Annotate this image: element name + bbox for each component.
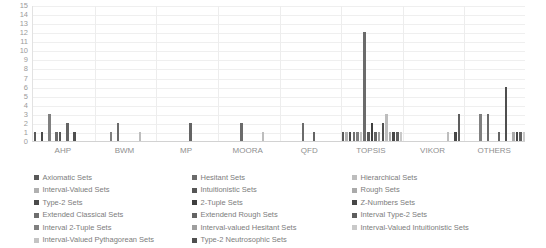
bar bbox=[342, 132, 344, 141]
bar-group-ahp bbox=[33, 6, 95, 141]
x-axis-label-qfd: QFD bbox=[301, 146, 318, 156]
legend-item[interactable]: Hierarchical Sets bbox=[352, 172, 532, 183]
x-axis: AHPBWMMPMOORAQFDTOPSISVIKOROTHERS bbox=[32, 146, 525, 164]
legend-item-label: Interval-Valued Pythagorean Sets bbox=[43, 236, 155, 244]
bar bbox=[389, 132, 391, 141]
y-axis-tick-1: 1 bbox=[24, 129, 28, 137]
legend-item-label: Axiomatic Sets bbox=[43, 174, 93, 182]
bar bbox=[378, 132, 380, 141]
y-axis-tick-11: 11 bbox=[20, 39, 28, 47]
legend-item-label: Interval-Valued Intuitionistic Sets bbox=[361, 224, 469, 232]
plot-area bbox=[32, 6, 525, 142]
legend-item[interactable]: Intuitionistic Sets bbox=[192, 185, 352, 196]
legend-column-3: Hierarchical SetsRough SetsZ-Numbers Set… bbox=[352, 172, 532, 246]
bar bbox=[55, 132, 57, 141]
legend-swatch-icon bbox=[34, 188, 39, 193]
y-axis-tick-12: 12 bbox=[20, 29, 28, 37]
legend-item-label: Hesitant Sets bbox=[201, 174, 246, 182]
x-axis-label-vikor: VIKOR bbox=[420, 146, 445, 156]
y-axis-tick-14: 14 bbox=[20, 11, 28, 19]
x-axis-label-ahp: AHP bbox=[55, 146, 71, 156]
bar bbox=[367, 132, 369, 141]
bar bbox=[345, 132, 347, 141]
y-axis-tick-5: 5 bbox=[24, 93, 28, 101]
bar bbox=[48, 114, 50, 141]
bar bbox=[349, 132, 351, 141]
legend-column-2: Hesitant SetsIntuitionistic Sets2-Tuple … bbox=[192, 172, 352, 246]
legend-item[interactable]: Extendend Rough Sets bbox=[192, 210, 352, 221]
legend-swatch-icon bbox=[34, 213, 39, 218]
y-axis-tick-2: 2 bbox=[24, 120, 28, 128]
legend-item[interactable]: Interval-valued Hesitant Sets bbox=[192, 222, 352, 233]
bar bbox=[382, 123, 384, 141]
legend-swatch-icon bbox=[352, 200, 357, 205]
legend-swatch-icon bbox=[352, 175, 357, 180]
bar bbox=[385, 114, 387, 141]
legend-item-label: Extendend Rough Sets bbox=[201, 211, 278, 219]
legend-item-label: Interval-valued Hesitant Sets bbox=[201, 224, 297, 232]
bar-group-bwm bbox=[95, 6, 157, 141]
legend-item[interactable]: Rough Sets bbox=[352, 185, 532, 196]
bar bbox=[505, 87, 507, 141]
bar bbox=[512, 132, 514, 141]
y-axis-tick-13: 13 bbox=[20, 20, 28, 28]
y-axis-tick-15: 15 bbox=[20, 2, 28, 10]
plot-wrapper: 1514131211109876543210 AHPBWMMPMOORAQFDT… bbox=[0, 0, 546, 168]
legend-item-label: Interval 2-Tuple Sets bbox=[43, 224, 112, 232]
legend-item-label: Rough Sets bbox=[361, 186, 400, 194]
bar bbox=[240, 123, 242, 141]
legend-item[interactable]: Z-Numbers Sets bbox=[352, 197, 532, 208]
y-axis-tick-10: 10 bbox=[20, 48, 28, 56]
legend-item[interactable]: 2-Tuple Sets bbox=[192, 197, 352, 208]
legend-item[interactable]: Type-2 Sets bbox=[34, 197, 192, 208]
legend-item[interactable]: Type-2 Neutrosophic Sets bbox=[192, 235, 352, 246]
legend-swatch-icon bbox=[352, 213, 357, 218]
bar bbox=[363, 32, 365, 141]
bar bbox=[392, 132, 394, 141]
legend-item-label: Interval-Valued Sets bbox=[43, 186, 110, 194]
bar bbox=[498, 132, 500, 141]
bar bbox=[59, 132, 61, 141]
legend-item[interactable]: Interval 2-Tuple Sets bbox=[34, 222, 192, 233]
legend-item-label: Type-2 Sets bbox=[43, 199, 83, 207]
y-axis-tick-8: 8 bbox=[24, 66, 28, 74]
bar-group-moora bbox=[218, 6, 280, 141]
legend-swatch-icon bbox=[352, 225, 357, 230]
bar bbox=[519, 132, 521, 141]
legend-swatch-icon bbox=[34, 175, 39, 180]
bar bbox=[523, 132, 525, 141]
bar bbox=[139, 132, 141, 141]
bar bbox=[73, 132, 75, 141]
legend-swatch-icon bbox=[192, 238, 197, 243]
legend-swatch-icon bbox=[34, 200, 39, 205]
bar bbox=[353, 132, 355, 141]
legend-item[interactable]: Interval-Valued Pythagorean Sets bbox=[34, 235, 192, 246]
bar bbox=[189, 123, 191, 141]
x-axis-label-mp: MP bbox=[180, 146, 192, 156]
bar bbox=[262, 132, 264, 141]
y-axis-tick-9: 9 bbox=[24, 57, 28, 65]
bar-group-vikor bbox=[403, 6, 465, 141]
x-axis-label-others: OTHERS bbox=[478, 146, 511, 156]
x-axis-label-bwm: BWM bbox=[115, 146, 135, 156]
legend-item[interactable]: Interval-Valued Sets bbox=[34, 185, 192, 196]
y-axis-tick-6: 6 bbox=[24, 84, 28, 92]
legend-swatch-icon bbox=[352, 188, 357, 193]
bar bbox=[360, 132, 362, 141]
bar-group-others bbox=[464, 6, 526, 141]
legend-swatch-icon bbox=[192, 175, 197, 180]
bar-chart: 1514131211109876543210 AHPBWMMPMOORAQFDT… bbox=[0, 0, 546, 248]
bar bbox=[371, 123, 373, 141]
bar-group-mp bbox=[156, 6, 218, 141]
legend-item[interactable]: Interval Type-2 Sets bbox=[352, 210, 532, 221]
legend-item-label: 2-Tuple Sets bbox=[201, 199, 243, 207]
legend-swatch-icon bbox=[192, 188, 197, 193]
legend-item[interactable]: Hesitant Sets bbox=[192, 172, 352, 183]
y-axis-tick-0: 0 bbox=[24, 138, 28, 146]
bar bbox=[313, 132, 315, 141]
legend-item[interactable]: Axiomatic Sets bbox=[34, 172, 192, 183]
legend-item[interactable]: Interval-Valued Intuitionistic Sets bbox=[352, 222, 532, 233]
legend-item[interactable]: Extended Classical Sets bbox=[34, 210, 192, 221]
bar-group-topsis bbox=[341, 6, 403, 141]
bar bbox=[110, 132, 112, 141]
